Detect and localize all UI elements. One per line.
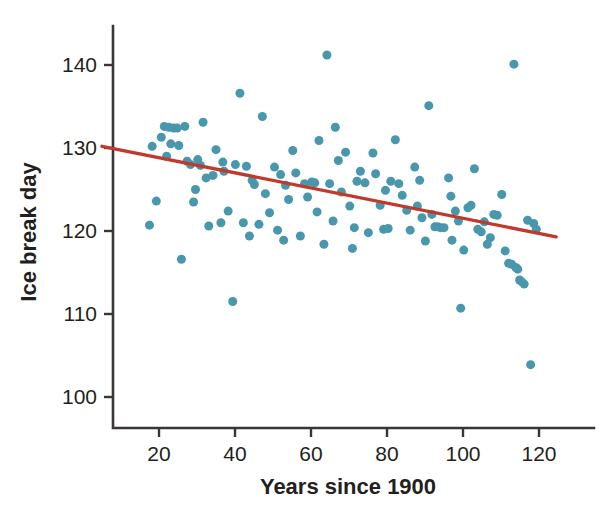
scatter-point — [204, 222, 213, 231]
scatter-point — [371, 169, 380, 178]
scatter-point — [265, 208, 274, 217]
scatter-point — [406, 226, 415, 235]
scatter-point — [331, 123, 340, 132]
scatter-point — [360, 178, 369, 187]
scatter-point — [398, 191, 407, 200]
scatter-point — [310, 178, 319, 187]
scatter-point — [303, 192, 312, 201]
x-axis-title: Years since 1900 — [260, 474, 436, 499]
scatter-point — [173, 124, 182, 133]
scatter-point — [459, 246, 468, 255]
scatter-plot-figure: 100110120130140 20406080100120 Ice break… — [0, 0, 606, 511]
scatter-point — [391, 135, 400, 144]
scatter-point — [513, 265, 522, 274]
scatter-point — [456, 304, 465, 313]
scatter-point — [180, 122, 189, 131]
scatter-point — [177, 255, 186, 264]
data-points — [145, 51, 541, 370]
x-tick-labels: 20406080100120 — [147, 442, 556, 465]
scatter-point — [501, 246, 510, 255]
scatter-point — [520, 280, 529, 289]
scatter-point — [451, 207, 460, 216]
x-tick-label: 60 — [299, 442, 322, 465]
scatter-point — [470, 164, 479, 173]
scatter-point — [212, 145, 221, 154]
scatter-point — [444, 173, 453, 182]
scatter-point — [216, 218, 225, 227]
tick-marks — [104, 65, 539, 437]
scatter-point — [329, 217, 338, 226]
scatter-point — [417, 213, 426, 222]
scatter-point — [368, 148, 377, 157]
scatter-point — [152, 197, 161, 206]
scatter-point — [313, 207, 322, 216]
scatter-point — [350, 223, 359, 232]
scatter-point — [242, 162, 251, 171]
regression-line — [102, 146, 556, 236]
scatter-point — [314, 136, 323, 145]
scatter-point — [345, 202, 354, 211]
scatter-point — [291, 168, 300, 177]
scatter-point — [322, 51, 331, 60]
scatter-point — [166, 139, 175, 148]
scatter-point — [486, 233, 495, 242]
scatter-point — [245, 231, 254, 240]
scatter-point — [319, 240, 328, 249]
scatter-point — [424, 101, 433, 110]
scatter-point — [466, 201, 475, 210]
scatter-point — [279, 236, 288, 245]
scatter-point — [477, 227, 486, 236]
scatter-point — [270, 163, 279, 172]
scatter-point — [493, 211, 502, 220]
scatter-point — [148, 142, 157, 151]
scatter-point — [239, 218, 248, 227]
scatter-point — [364, 228, 373, 237]
scatter-point — [228, 297, 237, 306]
trend-line — [102, 146, 556, 236]
scatter-point — [235, 89, 244, 98]
scatter-point — [384, 224, 393, 233]
scatter-point — [276, 170, 285, 179]
scatter-point — [509, 60, 518, 69]
x-tick-label: 40 — [223, 442, 246, 465]
scatter-point — [273, 226, 282, 235]
y-axis-title: Ice break day — [16, 162, 41, 302]
scatter-point — [199, 118, 208, 127]
y-tick-label: 110 — [64, 302, 97, 325]
scatter-point — [145, 221, 154, 230]
scatter-point — [334, 156, 343, 165]
scatter-point — [191, 185, 200, 194]
scatter-point — [421, 236, 430, 245]
scatter-point — [218, 158, 227, 167]
scatter-point — [189, 197, 198, 206]
x-tick-label: 80 — [375, 442, 398, 465]
y-tick-label: 100 — [62, 385, 97, 408]
y-tick-labels: 100110120130140 — [62, 53, 97, 408]
scatter-point — [288, 146, 297, 155]
scatter-point — [356, 167, 365, 176]
scatter-point — [410, 163, 419, 172]
scatter-point — [447, 236, 456, 245]
scatter-point — [231, 160, 240, 169]
scatter-point — [174, 141, 183, 150]
y-tick-label: 130 — [62, 136, 97, 159]
scatter-point — [415, 176, 424, 185]
scatter-point — [348, 244, 357, 253]
scatter-point — [526, 360, 535, 369]
scatter-point — [261, 189, 270, 198]
scatter-point — [254, 220, 263, 229]
x-tick-label: 120 — [521, 442, 556, 465]
scatter-point — [258, 112, 267, 121]
scatter-point — [296, 231, 305, 240]
scatter-point — [157, 133, 166, 142]
x-tick-label: 20 — [147, 442, 170, 465]
y-tick-label: 140 — [62, 53, 97, 76]
scatter-point — [386, 177, 395, 186]
scatter-point — [381, 186, 390, 195]
scatter-point — [224, 207, 233, 216]
x-tick-label: 100 — [445, 442, 480, 465]
scatter-point — [446, 192, 455, 201]
scatter-point — [284, 195, 293, 204]
y-tick-label: 120 — [62, 219, 97, 242]
scatter-point — [440, 223, 449, 232]
